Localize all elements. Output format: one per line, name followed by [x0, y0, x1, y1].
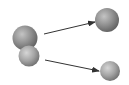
right-sphere-top: [95, 8, 119, 32]
diagram-canvas: [0, 0, 129, 85]
arrow-top: [44, 22, 95, 34]
left-sphere-small: [19, 46, 40, 67]
arrow-bottom: [45, 60, 99, 71]
right-sphere-bottom: [100, 61, 120, 81]
